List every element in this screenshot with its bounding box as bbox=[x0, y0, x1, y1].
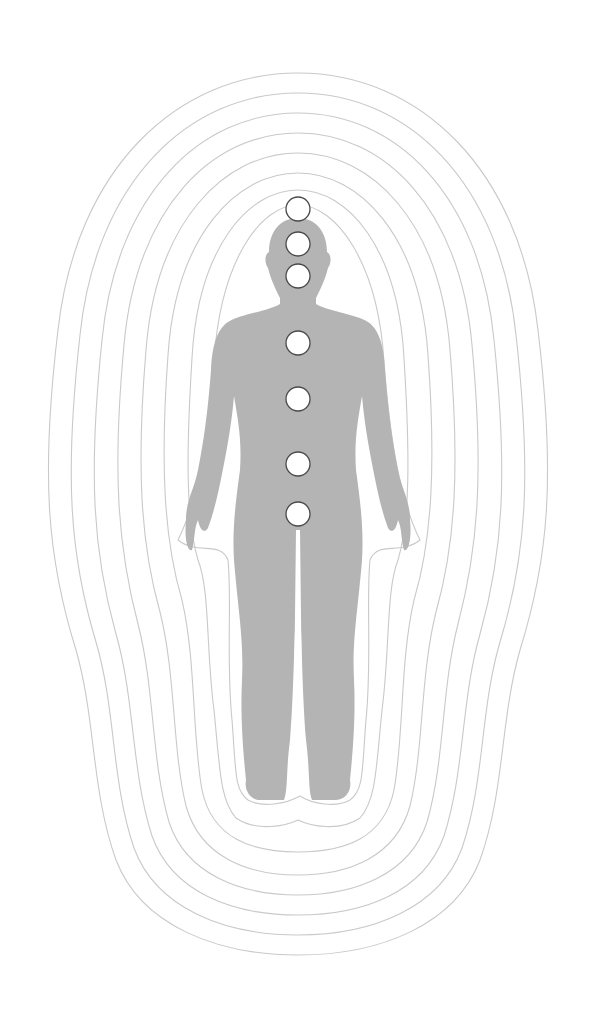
aura-svg bbox=[0, 0, 597, 1030]
chakra-third-eye bbox=[286, 232, 310, 256]
chakra-sacral bbox=[286, 452, 310, 476]
chakra-throat bbox=[286, 264, 310, 288]
aura-illustration bbox=[0, 0, 597, 1030]
chakra-solar-plexus bbox=[286, 387, 310, 411]
chakra-root bbox=[286, 502, 310, 526]
chakra-heart bbox=[286, 331, 310, 355]
chakra-crown bbox=[286, 197, 310, 221]
